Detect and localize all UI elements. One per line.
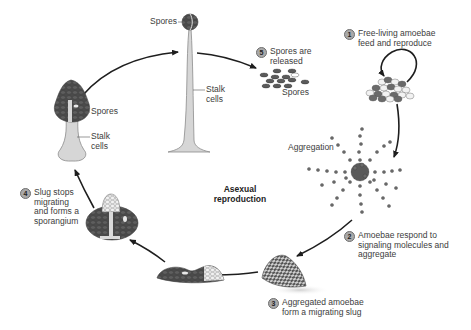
step-5: 5 Spores are released [256,47,312,66]
step-number-badge: 2 [344,231,355,242]
step-1: 1 Free-living amoebae feed and reproduce [344,29,435,48]
step-number-badge: 4 [20,188,31,199]
migrating-slug [157,266,224,283]
arrow-small-to-tall [83,52,178,95]
released-spores-label: Spores [282,88,309,98]
dictyostelium-life-cycle-diagram [0,0,471,330]
aggregation-streams [307,127,401,213]
tall-spore-head [182,14,198,30]
arrow-amoebae-to-aggregation [394,104,399,157]
arrow-migrating-to-sporangium [130,240,165,262]
released-spores [260,69,309,88]
tall-spores-label: Spores [150,17,177,27]
arrow-tall-to-spores [197,53,256,68]
early-spores-label: Spores [91,107,118,117]
step-4: 4 Slug stops migrating and forms a spora… [20,188,79,226]
step-number-badge: 1 [344,29,355,40]
tall-stalk-label: Stalk cells [206,85,225,104]
step-number-badge: 3 [268,298,279,309]
step-2: 2 Amoebae respond to signaling molecules… [344,231,449,260]
early-fruiting-body [54,80,90,161]
tall-fruiting-body [168,14,210,152]
amoebae-cluster [366,77,414,102]
aggregation-label: Aggregation [288,143,334,153]
early-stalk-label: Stalk cells [91,132,110,151]
step-number-badge: 5 [256,47,267,58]
cycle-center-label: Asexual reproduction [200,184,280,204]
aggregated-slug [262,255,330,295]
sporangium-formation [86,194,138,240]
step-3: 3 Aggregated amoebae form a migrating sl… [268,298,364,317]
